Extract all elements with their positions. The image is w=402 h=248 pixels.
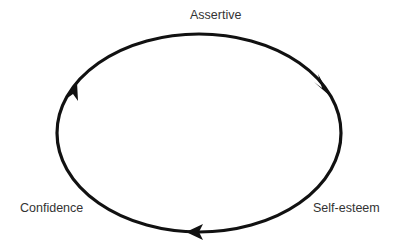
cycle-diagram: Assertive Self-esteem Confidence <box>0 0 402 248</box>
node-label-assertive: Assertive <box>190 9 241 22</box>
node-label-confidence: Confidence <box>20 202 83 215</box>
node-label-self-esteem: Self-esteem <box>313 202 380 215</box>
